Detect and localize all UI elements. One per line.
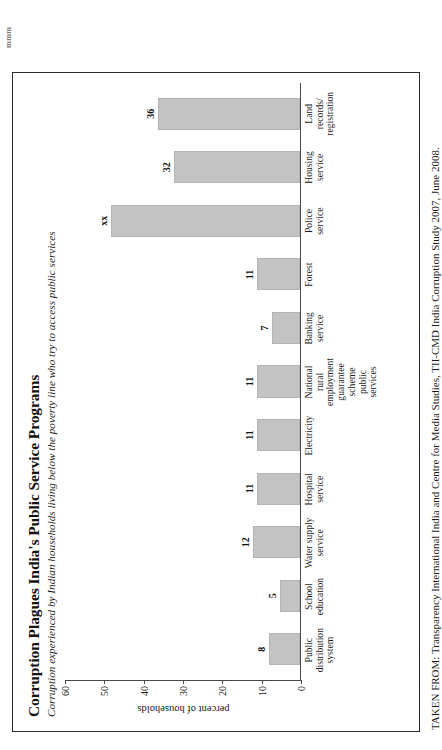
y-axis-tickmark <box>144 680 145 684</box>
x-axis-label: Forest <box>304 248 379 302</box>
chart-subtitle: Corruption experienced by Indian househo… <box>45 87 58 717</box>
bar <box>174 151 300 183</box>
bar-series: 8512111111711xx3236 <box>65 83 300 680</box>
y-axis-tickmark <box>222 680 223 684</box>
bar <box>269 633 300 665</box>
x-axis-label: National rural employment guarantee sche… <box>304 355 379 409</box>
x-axis-label: Land records/ registration <box>304 87 379 141</box>
y-axis-tickmark <box>262 680 263 684</box>
bar-group: 11 <box>65 462 300 516</box>
bar-value-label: 36 <box>146 109 156 119</box>
bar-group: xx <box>65 194 300 248</box>
bar-value-label: 11 <box>245 430 255 439</box>
bar-group: 7 <box>65 301 300 355</box>
bar <box>111 205 300 237</box>
x-axis-label: Public distribution system <box>304 623 379 677</box>
y-axis-tick-0: 0 <box>296 686 307 691</box>
bar-value-label: 7 <box>260 325 270 330</box>
bar-group: 8 <box>65 622 300 676</box>
y-axis-tick-50: 50 <box>99 686 110 696</box>
axes: 8512111111711xx3236 <box>65 83 301 681</box>
bar <box>280 580 300 612</box>
y-axis-tick-40: 40 <box>138 686 149 696</box>
y-axis-tick-30: 30 <box>178 686 189 696</box>
x-axis-label: School education <box>304 570 379 624</box>
bar-group: 11 <box>65 408 300 462</box>
y-axis-tickmark <box>65 680 66 684</box>
x-axis-label: Electricity <box>304 409 379 463</box>
y-axis-title: percent of households <box>65 703 301 717</box>
bar-value-label: 11 <box>245 484 255 493</box>
bar-group: 12 <box>65 515 300 569</box>
chart-title: Corruption Plagues India's Public Servic… <box>25 87 42 717</box>
y-axis-tick-labels: 0102030405060 <box>65 683 301 703</box>
y-axis-tick-10: 10 <box>256 686 267 696</box>
bar-value-label: 32 <box>162 162 172 172</box>
bar-value-label: 12 <box>241 537 251 547</box>
y-axis-tick-60: 60 <box>60 686 71 696</box>
bar <box>257 473 300 505</box>
bar-group: 5 <box>65 569 300 623</box>
bar-group: 36 <box>65 87 300 141</box>
y-axis-tickmark <box>301 680 302 684</box>
y-axis-tickmark <box>104 680 105 684</box>
x-axis-label: Water supply service <box>304 516 379 570</box>
bar-value-label: 5 <box>268 593 278 598</box>
bar <box>158 98 300 130</box>
x-axis-label: Banking service <box>304 302 379 356</box>
x-axis-label: Housing service <box>304 141 379 195</box>
page-top-text-fragment: mmm <box>4 27 13 49</box>
y-axis-tick-20: 20 <box>217 686 228 696</box>
bar <box>272 312 300 344</box>
plot-area: percent of households 0102030405060 8512… <box>65 83 413 717</box>
bar-group: 11 <box>65 355 300 409</box>
x-axis-category-labels: Public distribution systemSchool educati… <box>304 83 379 681</box>
bar-value-label: 11 <box>245 270 255 279</box>
y-axis-tickmark <box>183 680 184 684</box>
bar <box>257 365 300 397</box>
source-credit: TAKEN FROM: Transparency International I… <box>428 75 442 730</box>
bar <box>253 526 300 558</box>
bar-group: 32 <box>65 141 300 195</box>
bar <box>257 419 300 451</box>
x-axis-label: Police service <box>304 194 379 248</box>
bar-value-label: 11 <box>245 377 255 386</box>
chart-frame-inner: Corruption Plagues India's Public Servic… <box>13 73 419 731</box>
chart-frame: Corruption Plagues India's Public Servic… <box>12 72 420 732</box>
bar-group: 11 <box>65 248 300 302</box>
bar-value-label: 8 <box>257 647 267 652</box>
x-axis-label: Hospital service <box>304 462 379 516</box>
bar-value-label: xx <box>99 216 109 226</box>
y-axis-title-text: percent of households <box>137 705 229 716</box>
bar <box>257 258 300 290</box>
